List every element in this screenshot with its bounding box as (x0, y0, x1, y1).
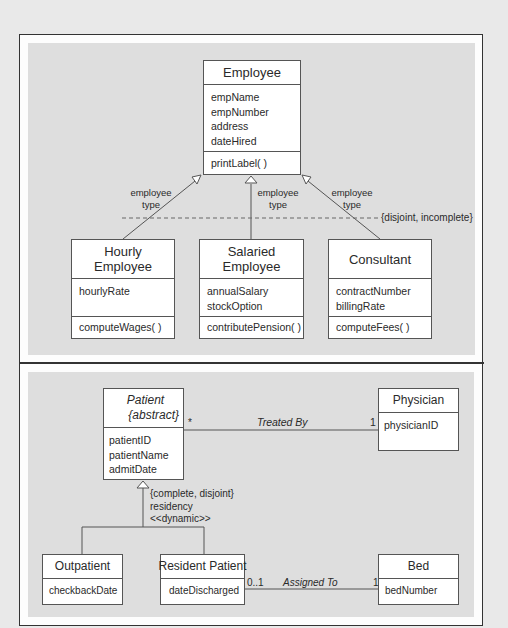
attributes-section: patientID patientName admitDate (104, 428, 183, 479)
class-name: Resident Patient (161, 555, 244, 579)
salaried-generalization-arrow-icon (245, 176, 257, 183)
attributes-section: checkbackDate (43, 579, 122, 604)
class-patient: Patient {abstract} patientID patientName… (103, 388, 184, 480)
attributes-section: empName empNumber address dateHired (204, 85, 300, 152)
attributes-section: contractNumber billingRate (329, 279, 431, 317)
class-name-line: Patient (104, 393, 183, 408)
attributes-section: bedNumber (379, 579, 458, 604)
class-salaried-employee: Salaried Employee annualSalary stockOpti… (199, 239, 304, 339)
treated-by-label: Treated By (257, 416, 308, 429)
abstract-stereotype: {abstract} (104, 408, 183, 423)
operation: computeFees( ) (336, 320, 431, 335)
attribute: patientID (109, 433, 183, 448)
attribute: checkbackDate (49, 584, 122, 599)
class-name: Salaried Employee (200, 240, 303, 279)
generalization-annotation: {complete, disjoint} residency <<dynamic… (150, 488, 234, 526)
label-line: employee (331, 187, 373, 199)
assigned-to-label: Assigned To (283, 576, 338, 589)
attributes-section: hourlyRate (72, 279, 174, 317)
class-name: Hourly Employee (72, 240, 174, 279)
label-line: type (257, 199, 299, 211)
operations-section: contributePension( ) (200, 317, 303, 338)
class-name: Patient {abstract} (104, 389, 183, 428)
attributes-section: dateDischarged (161, 579, 244, 604)
class-name: Outpatient (43, 555, 122, 579)
discriminator-label-hourly: employee type (130, 187, 172, 211)
class-name-line: Salaried (228, 244, 276, 259)
attribute: annualSalary (207, 284, 303, 299)
attribute: patientName (109, 448, 183, 463)
discriminator-label-consultant: employee type (331, 187, 373, 211)
class-name: Employee (204, 61, 300, 85)
resident-multiplicity: 0..1 (247, 576, 264, 589)
attributes-section: physicianID (379, 413, 458, 450)
class-hourly-employee: Hourly Employee hourlyRate computeWages(… (71, 239, 175, 339)
label-line: employee (130, 187, 172, 199)
operation: computeWages( ) (79, 320, 174, 335)
attribute: empNumber (211, 105, 300, 120)
discriminator-residency: residency (150, 501, 234, 514)
attribute: hourlyRate (79, 284, 174, 299)
discriminator-label-salaried: employee type (257, 187, 299, 211)
class-resident-patient: Resident Patient dateDischarged (160, 554, 245, 605)
attribute: stockOption (207, 299, 303, 314)
bed-multiplicity: 1 (373, 576, 379, 589)
operations-section: computeFees( ) (329, 317, 431, 338)
class-name: Physician (379, 389, 458, 413)
dynamic-stereotype: <<dynamic>> (150, 513, 234, 526)
class-name: Bed (379, 555, 458, 579)
attribute: dateDischarged (169, 584, 244, 599)
class-employee: Employee empName empNumber address dateH… (203, 60, 301, 175)
class-name: Consultant (329, 240, 431, 279)
attribute: address (211, 119, 300, 134)
patient-multiplicity: * (188, 416, 192, 429)
attribute: dateHired (211, 134, 300, 149)
operation: printLabel( ) (211, 156, 300, 171)
class-name-line: Employee (94, 259, 152, 274)
class-bed: Bed bedNumber (378, 554, 459, 605)
physician-multiplicity: 1 (370, 416, 376, 429)
label-line: employee (257, 187, 299, 199)
attribute: physicianID (384, 418, 458, 433)
attribute: bedNumber (385, 584, 458, 599)
complete-disjoint-constraint: {complete, disjoint} (150, 488, 234, 501)
label-line: type (130, 199, 172, 211)
operations-section: computeWages( ) (72, 317, 174, 338)
patient-generalization-arrow-icon (137, 481, 149, 488)
attributes-section: annualSalary stockOption (200, 279, 303, 317)
attribute: empName (211, 90, 300, 105)
class-physician: Physician physicianID (378, 388, 459, 451)
attribute: contractNumber (336, 284, 431, 299)
class-name-line: Hourly (104, 244, 142, 259)
attribute: billingRate (336, 299, 431, 314)
class-consultant: Consultant contractNumber billingRate co… (328, 239, 432, 339)
label-line: type (331, 199, 373, 211)
disjoint-incomplete-constraint: {disjoint, incomplete} (381, 211, 473, 224)
class-name-line: Employee (223, 259, 281, 274)
operations-section: printLabel( ) (204, 152, 300, 174)
attribute: admitDate (109, 462, 183, 477)
operation: contributePension( ) (207, 320, 303, 335)
class-outpatient: Outpatient checkbackDate (42, 554, 123, 605)
